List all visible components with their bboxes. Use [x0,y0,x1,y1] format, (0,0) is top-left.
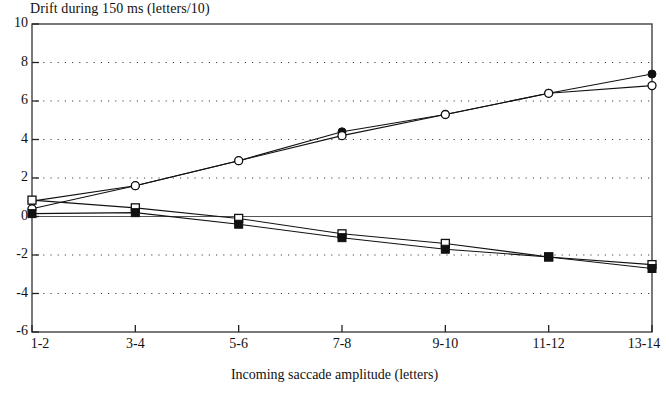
data-point-marker [648,264,656,272]
data-point-marker [545,253,553,261]
x-tick-label: 13-14 [614,336,669,352]
y-tick-label: 10 [0,15,28,31]
x-tick-label: 5-6 [209,336,269,352]
data-point-marker [441,110,449,118]
x-tick-label: 7-8 [312,336,372,352]
data-point-marker [648,82,656,90]
data-point-marker [131,182,139,190]
data-point-marker [235,220,243,228]
y-tick-label: 8 [0,54,28,70]
y-tick-label: 4 [0,131,28,147]
y-tick-label: 2 [0,169,28,185]
series-line [32,86,652,209]
plot-frame [32,24,652,332]
x-tick-label: 9-10 [415,336,475,352]
y-tick-label: -2 [0,246,28,262]
data-point-marker [338,234,346,242]
y-tick-label: 0 [0,208,28,224]
clipped-caption [0,387,669,397]
data-point-marker [28,196,36,204]
x-tick-label: 1-2 [10,336,70,352]
y-tick-label: 6 [0,92,28,108]
data-point-marker [131,209,139,217]
y-tick-label: -4 [0,285,28,301]
data-point-marker [235,157,243,165]
data-point-marker [338,132,346,140]
x-axis-title: Incoming saccade amplitude (letters) [0,367,669,383]
data-point-marker [545,89,553,97]
x-tick-label: 11-12 [519,336,579,352]
data-point-marker [28,210,36,218]
x-tick-label: 3-4 [105,336,165,352]
data-point-marker [648,70,656,78]
figure: Drift during 150 ms (letters/10) Incomin… [0,0,669,397]
data-point-marker [441,245,449,253]
